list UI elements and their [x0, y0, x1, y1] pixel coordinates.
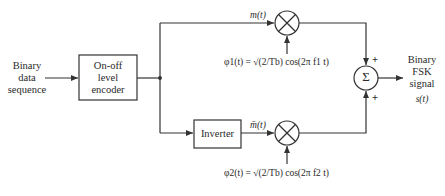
top-multiplier-icon	[275, 11, 299, 35]
bottom-multiplier-icon	[275, 121, 299, 145]
inverter-label: Inverter	[194, 128, 241, 140]
bottom-signal-label: m̄(t)	[244, 119, 272, 131]
summer-symbol: Σ	[356, 71, 376, 83]
output-signal-label: s(t)	[403, 93, 441, 105]
top-signal-label: m(t)	[244, 9, 272, 21]
bottom-carrier-label: φ2(t) = √(2/Tb) cos(2π f2 t)	[224, 168, 329, 178]
input-label: Binary data sequence	[6, 60, 48, 96]
junction-dot	[159, 77, 162, 80]
output-label: Binary FSK signal s(t)	[403, 54, 441, 105]
summer-plus-bottom: +	[370, 92, 380, 104]
summer-plus-top: +	[370, 54, 380, 66]
top-carrier-label: φ1(t) = √(2/Tb) cos(2π f1 t)	[224, 57, 329, 67]
encoder-label: On-off level encoder	[79, 60, 137, 96]
